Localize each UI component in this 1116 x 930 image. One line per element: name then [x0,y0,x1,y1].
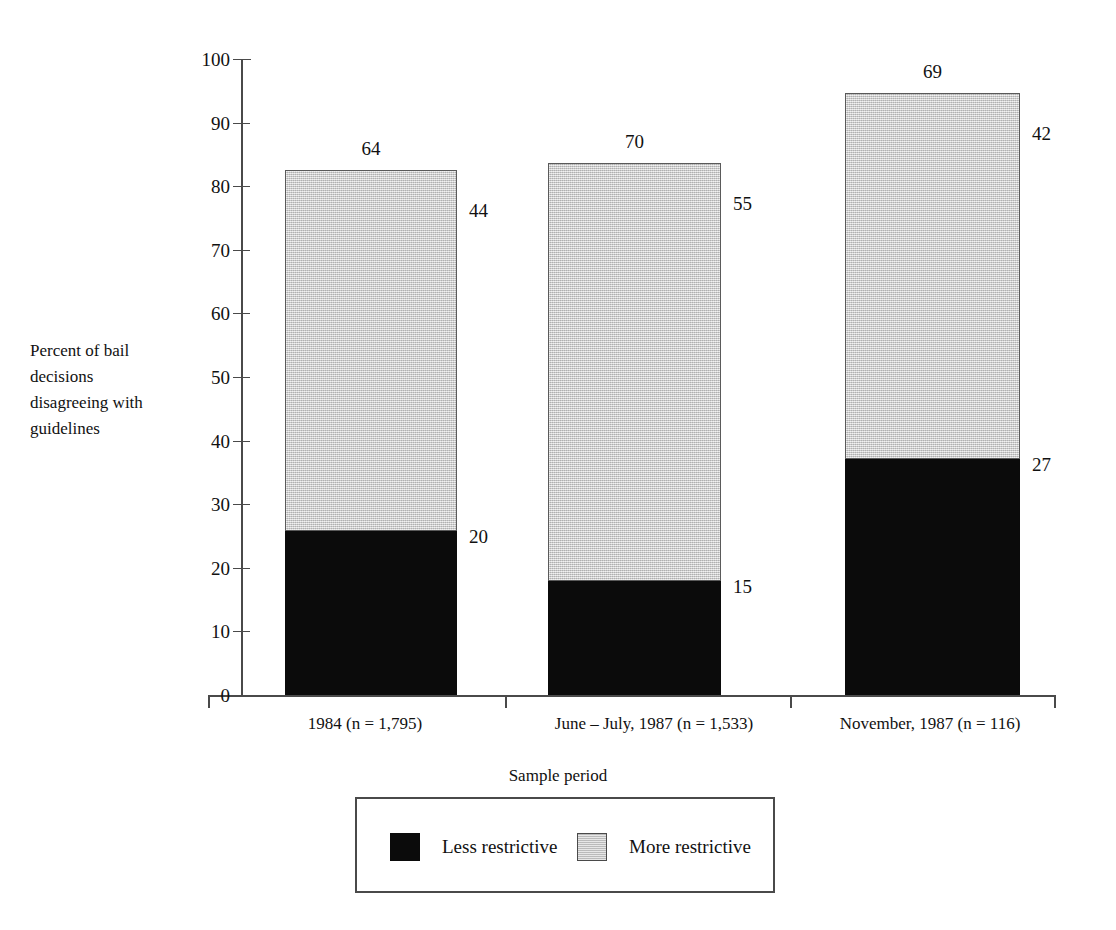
bar-segment-more-restrictive [845,93,1020,460]
legend-item-less-restrictive: Less restrictive [390,833,558,861]
stacked-bar [548,163,721,695]
y-axis-tick-label: 50 [186,368,230,387]
y-axis-tick-mark [233,250,250,251]
gray-square-swatch-icon [577,833,607,861]
y-axis-tick-mark [233,313,250,314]
bar-total-label: 69 [845,62,1020,81]
bar-segment-more-restrictive [285,170,457,531]
x-axis-tick-start [208,695,210,708]
y-axis-tick-mark [233,377,250,378]
bar-segment-less-restrictive [548,581,721,695]
y-axis-tick-mark [233,695,250,696]
y-axis-tick-mark [233,186,250,187]
stacked-bar [285,170,457,695]
segment-label-more-restrictive: 55 [733,194,752,213]
segment-label-less-restrictive: 20 [469,527,488,546]
y-axis-tick-label: 10 [186,622,230,641]
y-axis-tick-label: 100 [186,50,230,69]
y-axis-tick-mark [233,441,250,442]
segment-label-less-restrictive: 27 [1032,455,1051,474]
y-axis-tick-label: 60 [186,304,230,323]
bar-segment-less-restrictive [845,459,1020,695]
y-axis-tick-mark [233,568,250,569]
y-axis-tick-label: 40 [186,432,230,451]
y-axis-title-line-2: decisions [30,364,200,390]
segment-label-less-restrictive: 15 [733,577,752,596]
legend-label-less-restrictive: Less restrictive [442,836,558,858]
bar-segment-less-restrictive [285,531,457,695]
stacked-bar [845,93,1020,695]
legend-label-more-restrictive: More restrictive [629,836,751,858]
y-axis-title: Percent of bail decisions disagreeing wi… [30,338,200,442]
bar-total-label: 64 [285,139,457,158]
y-axis-tick-mark [233,123,250,124]
segment-label-more-restrictive: 42 [1032,124,1051,143]
y-axis-title-line-1: Percent of bail [30,338,200,364]
chart-legend: Less restrictive More restrictive [355,797,775,893]
y-axis-tick-mark [233,59,251,60]
y-axis-tick-label: 80 [186,177,230,196]
y-axis-title-line-3: disagreeing with [30,390,200,416]
bar-total-label: 70 [548,132,721,151]
x-axis-category-label-3: November, 1987 (n = 116) [800,714,1060,734]
y-axis-tick-label: 70 [186,241,230,260]
y-axis-line [241,59,243,697]
stacked-bar-chart: Percent of bail decisions disagreeing wi… [0,0,1116,930]
segment-label-more-restrictive: 44 [469,201,488,220]
y-axis-tick-label: 90 [186,114,230,133]
y-axis-tick-label: 30 [186,495,230,514]
x-axis-tick-1 [505,695,507,708]
x-axis-tick-end [1054,695,1056,708]
x-axis-line [208,695,1056,697]
x-axis-category-label-2: June – July, 1987 (n = 1,533) [509,714,799,734]
legend-item-more-restrictive: More restrictive [577,833,751,861]
y-axis-title-line-4: guidelines [30,416,200,442]
y-axis-tick-label: 20 [186,559,230,578]
black-square-swatch-icon [390,833,420,861]
bar-segment-more-restrictive [548,163,721,581]
x-axis-title: Sample period [0,766,1116,786]
x-axis-category-label-1: 1984 (n = 1,795) [240,714,490,734]
y-axis-tick-mark [233,504,250,505]
y-axis-tick-mark [233,631,250,632]
x-axis-tick-2 [790,695,792,708]
